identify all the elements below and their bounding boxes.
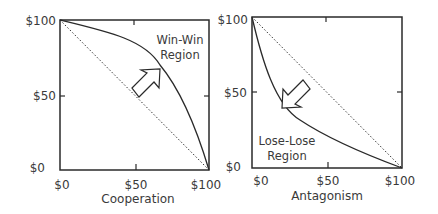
x-axis-title: Antagonism xyxy=(291,189,363,203)
x-tick-label: $100 xyxy=(191,178,222,192)
y-tick-label: $0 xyxy=(226,160,241,174)
y-tick-label: $100 xyxy=(217,13,248,27)
antagonism-chart: Lose-Lose Region $100 $50 $0 $0 $50 $100… xyxy=(217,13,415,203)
x-tick-label: $0 xyxy=(54,178,69,192)
y-tick-label: $50 xyxy=(33,89,56,103)
region-label-line2: Region xyxy=(267,149,306,163)
y-tick-label: $100 xyxy=(25,14,56,28)
x-tick-label: $50 xyxy=(317,174,340,188)
x-axis-title: Cooperation xyxy=(101,192,174,206)
region-label-line2: Region xyxy=(160,48,199,62)
region-label-line1: Win-Win xyxy=(157,33,204,47)
x-tick-label: $0 xyxy=(253,174,268,188)
y-tick-label: $0 xyxy=(30,161,45,175)
cooperation-chart: Win-Win Region $100 $50 $0 $0 $50 $100 C… xyxy=(25,14,221,206)
diagram-canvas: Win-Win Region $100 $50 $0 $0 $50 $100 C… xyxy=(0,0,438,214)
x-tick-label: $100 xyxy=(385,174,416,188)
region-label-line1: Lose-Lose xyxy=(259,134,316,148)
y-tick-label: $50 xyxy=(224,86,247,100)
x-tick-label: $50 xyxy=(125,178,148,192)
